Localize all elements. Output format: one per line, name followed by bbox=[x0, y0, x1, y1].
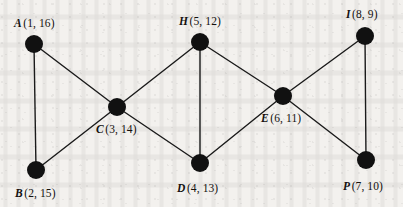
node-pair-text: (4, 13) bbox=[187, 182, 218, 194]
node-pair-text: (3, 14) bbox=[105, 123, 136, 135]
node-label-a: A(1, 16) bbox=[14, 18, 55, 30]
node-label-h: H(5, 12) bbox=[179, 16, 221, 28]
node-id-text: A bbox=[14, 17, 23, 29]
graph-edge bbox=[200, 96, 283, 163]
node-label-c: C(3, 14) bbox=[96, 124, 137, 136]
node-label-d: D(4, 13) bbox=[177, 183, 218, 195]
graph-edge bbox=[200, 42, 283, 96]
graph-edge bbox=[117, 42, 200, 107]
graph-edge bbox=[365, 36, 366, 160]
node-id-text: B bbox=[15, 187, 24, 199]
graph-node bbox=[108, 98, 126, 116]
node-id-text: C bbox=[96, 123, 105, 135]
graph-figure: A(1, 16)B(2, 15)C(3, 14)D(4, 13)H(5, 12)… bbox=[0, 0, 403, 207]
node-label-e: E(6, 11) bbox=[261, 113, 301, 125]
graph-node bbox=[25, 35, 43, 53]
node-id-text: P bbox=[343, 180, 352, 192]
node-id-text: H bbox=[179, 15, 190, 27]
node-pair-text: (7, 10) bbox=[352, 180, 383, 192]
graph-edge bbox=[283, 96, 366, 160]
node-id-text: E bbox=[261, 112, 270, 124]
node-label-b: B(2, 15) bbox=[15, 188, 56, 200]
node-pair-text: (5, 12) bbox=[190, 15, 221, 27]
graph-node bbox=[356, 27, 374, 45]
graph-node bbox=[27, 161, 45, 179]
node-pair-text: (6, 11) bbox=[270, 112, 301, 124]
node-label-p: P(7, 10) bbox=[343, 181, 383, 193]
graph-edge bbox=[34, 44, 117, 107]
graph-node bbox=[191, 154, 209, 172]
node-pair-text: (8, 9) bbox=[352, 8, 378, 20]
graph-edge bbox=[283, 36, 365, 96]
node-id-text: D bbox=[177, 182, 187, 194]
node-pair-text: (1, 16) bbox=[23, 17, 54, 29]
graph-edge bbox=[36, 107, 117, 170]
node-pair-text: (2, 15) bbox=[24, 187, 55, 199]
edge-layer bbox=[34, 36, 366, 170]
graph-canvas bbox=[0, 0, 403, 207]
graph-node bbox=[191, 33, 209, 51]
node-label-i: I(8, 9) bbox=[346, 9, 378, 21]
graph-edge bbox=[34, 44, 36, 170]
graph-node bbox=[357, 151, 375, 169]
graph-node bbox=[274, 87, 292, 105]
